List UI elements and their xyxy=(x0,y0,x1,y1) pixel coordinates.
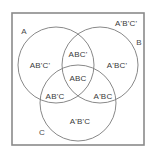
set-name-label-c: C xyxy=(39,129,45,137)
set-name-label-a: A xyxy=(21,28,27,36)
region-label-ab-only: ABC' xyxy=(69,51,88,59)
region-label-a-only: AB'C' xyxy=(30,62,51,70)
region-label-bc-only: A'BC xyxy=(94,93,113,101)
region-label-ac-only: AB'C xyxy=(46,93,65,101)
region-label-b-only: A'BC' xyxy=(107,62,128,70)
venn-diagram-figure: A'B'C' A B C AB'C' ABC' A'BC' AB'C ABC A… xyxy=(0,0,156,157)
set-name-label-b: B xyxy=(136,39,142,47)
region-label-abc: ABC xyxy=(69,75,86,83)
region-label-c-only: A'B'C xyxy=(70,118,91,126)
region-label-universe-complement: A'B'C' xyxy=(115,20,137,28)
